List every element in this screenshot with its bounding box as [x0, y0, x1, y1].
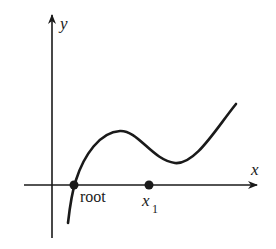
function-graph-diagram: y x root x 1 — [0, 0, 276, 249]
y-axis-label: y — [58, 14, 68, 33]
x1-point — [145, 181, 154, 190]
graph-svg: y x root x 1 — [0, 0, 276, 249]
root-label: root — [80, 188, 106, 205]
x-axis-label: x — [250, 160, 259, 179]
x1-subscript: 1 — [152, 202, 158, 216]
x1-label: x — [141, 191, 150, 210]
root-point — [70, 181, 79, 190]
